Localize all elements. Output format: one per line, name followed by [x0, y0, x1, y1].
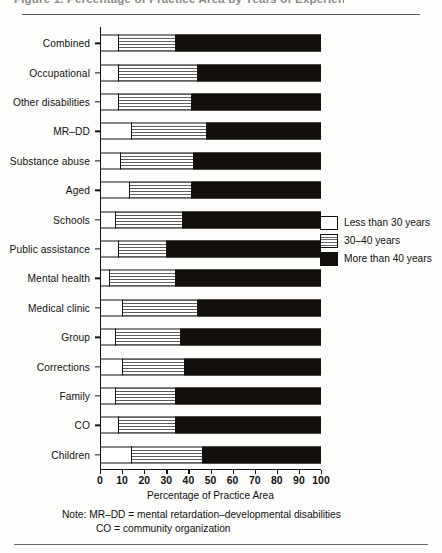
x-axis-tick-label: 40 — [183, 475, 195, 486]
bar-segment — [118, 94, 191, 111]
category-label: Substance abuse — [0, 155, 90, 166]
stacked-bar — [100, 64, 321, 81]
category-label: Public assistance — [0, 244, 90, 255]
bar-row: Corrections — [0, 352, 442, 381]
bar-row: Family — [0, 382, 442, 411]
bar-segment — [175, 35, 321, 52]
stacked-bar — [100, 388, 321, 405]
bar-segment — [100, 123, 131, 140]
x-axis-tick — [321, 470, 322, 474]
bar-segment — [100, 329, 115, 346]
legend-label: More than 40 years — [344, 253, 432, 264]
bar-row: Children — [0, 441, 442, 470]
stacked-bar — [100, 358, 321, 375]
bar-segment — [175, 417, 321, 434]
x-axis-tick — [233, 470, 234, 474]
x-axis-tick — [211, 470, 212, 474]
x-axis-tick — [255, 470, 256, 474]
bar-segment — [122, 299, 197, 316]
category-label: Group — [0, 332, 90, 343]
bar-segment — [100, 211, 115, 228]
bar-segment — [100, 388, 115, 405]
bar-segment — [182, 211, 321, 228]
stacked-bar — [100, 211, 321, 228]
bar-row: CO — [0, 411, 442, 440]
legend-label: Less than 30 years — [344, 217, 430, 228]
bar-segment — [100, 446, 131, 463]
stacked-bar — [100, 241, 321, 258]
category-label: Corrections — [0, 361, 90, 372]
white-box-icon — [320, 216, 338, 230]
x-axis-tick — [144, 470, 145, 474]
bar-row: Occupational — [0, 58, 442, 87]
category-label: Occupational — [0, 67, 90, 78]
bar-segment — [115, 211, 181, 228]
stacked-bar — [100, 35, 321, 52]
bar-segment — [191, 94, 321, 111]
bar-row: Aged — [0, 176, 442, 205]
legend-item: 30–40 years — [320, 232, 440, 249]
x-axis-tick-label: 60 — [227, 475, 239, 486]
bar-row: Group — [0, 323, 442, 352]
bar-segment — [122, 358, 184, 375]
stacked-bar — [100, 152, 321, 169]
category-label: CO — [0, 420, 90, 431]
bar-row: Other disabilities — [0, 88, 442, 117]
stacked-bar — [100, 299, 321, 316]
x-axis-tick-label: 0 — [97, 475, 103, 486]
category-label: Schools — [0, 214, 90, 225]
bar-segment — [197, 299, 321, 316]
bar-row: Substance abuse — [0, 147, 442, 176]
x-axis-tick-label: 90 — [293, 475, 305, 486]
bar-segment — [202, 446, 321, 463]
x-axis-title: Percentage of Practice Area — [100, 490, 321, 501]
bar-segment — [115, 329, 179, 346]
bar-row: Medical clinic — [0, 294, 442, 323]
bar-segment — [100, 417, 118, 434]
x-axis-tick-labels: 0102030405060708090100 — [0, 475, 442, 489]
stacked-bar — [100, 417, 321, 434]
x-axis-tick-label: 100 — [312, 475, 329, 486]
x-axis-tick-label: 20 — [138, 475, 150, 486]
legend-item: More than 40 years — [320, 250, 440, 267]
category-label: Mental health — [0, 273, 90, 284]
bar-segment — [129, 182, 191, 199]
bar-segment — [100, 241, 118, 258]
stacked-bar — [100, 123, 321, 140]
bar-segment — [100, 270, 109, 287]
bar-segment — [175, 388, 321, 405]
category-label: Aged — [0, 185, 90, 196]
bar-segment — [118, 35, 175, 52]
category-label: Other disabilities — [0, 97, 90, 108]
bar-segment — [100, 64, 118, 81]
bar-segment — [131, 123, 206, 140]
x-axis-tick — [188, 470, 189, 474]
x-axis-tick — [299, 470, 300, 474]
x-axis-tick-label: 70 — [249, 475, 261, 486]
bar-row: Mental health — [0, 264, 442, 293]
bar-segment — [193, 152, 321, 169]
x-axis-tick — [100, 470, 101, 474]
bar-segment — [100, 299, 122, 316]
bar-segment — [100, 35, 118, 52]
bar-segment — [197, 64, 321, 81]
x-axis-tick-label: 10 — [116, 475, 128, 486]
x-axis-tick-label: 30 — [161, 475, 173, 486]
stacked-bar — [100, 182, 321, 199]
category-label: Combined — [0, 38, 90, 49]
bar-segment — [120, 152, 193, 169]
x-axis-tick — [166, 470, 167, 474]
bar-segment — [118, 417, 175, 434]
striped-box-icon — [320, 234, 338, 248]
note-line-2: CO = community organization — [62, 522, 341, 536]
x-axis-tick-label: 80 — [271, 475, 283, 486]
x-axis-tick — [122, 470, 123, 474]
legend-label: 30–40 years — [344, 235, 400, 246]
bar-segment — [175, 270, 321, 287]
bar-segment — [184, 358, 321, 375]
stacked-bar — [100, 94, 321, 111]
legend-item: Less than 30 years — [320, 214, 440, 231]
category-label: Medical clinic — [0, 302, 90, 313]
bottom-divider-rule — [14, 544, 428, 545]
bar-segment — [109, 270, 175, 287]
